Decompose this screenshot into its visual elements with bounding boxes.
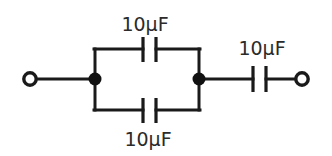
- series-capacitor-label: 10μF: [238, 37, 285, 59]
- circuit-schematic-canvas: 10μF 10μF 10μF: [0, 0, 332, 156]
- left-terminal-icon: [24, 73, 36, 85]
- right-terminal-icon: [296, 73, 308, 85]
- left-junction-dot: [89, 73, 102, 86]
- capacitor-network-diagram: 10μF 10μF 10μF: [0, 0, 332, 156]
- top-capacitor-label: 10μF: [121, 13, 168, 35]
- right-junction-dot: [193, 73, 206, 86]
- bottom-capacitor-label: 10μF: [124, 128, 171, 150]
